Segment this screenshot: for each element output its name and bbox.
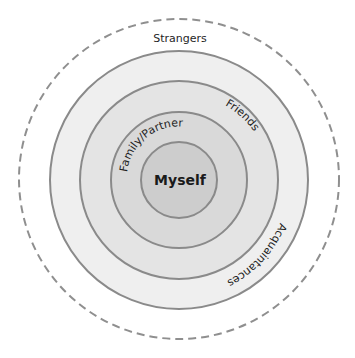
myself-label: Myself bbox=[154, 172, 207, 188]
social-circles-diagram: Strangers Family/Partner Friends Acquain… bbox=[0, 0, 355, 358]
strangers-label: Strangers bbox=[153, 32, 207, 45]
